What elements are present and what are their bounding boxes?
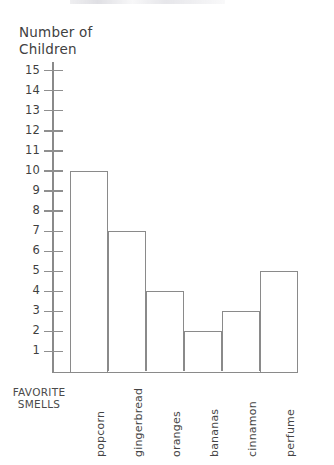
- y-tick-9: [44, 190, 63, 191]
- x-label-oranges: oranges: [170, 411, 183, 457]
- y-tick-label-2: 2: [14, 325, 40, 337]
- y-tick-6: [44, 251, 63, 252]
- y-tick-label-1: 1: [14, 345, 40, 357]
- bar-chart: Number of Children FAVORITE SMELLS 15141…: [0, 0, 334, 465]
- y-tick-14: [44, 90, 63, 91]
- x-label-popcorn: popcorn: [94, 411, 107, 457]
- y-tick-label-13: 13: [14, 105, 40, 117]
- x-axis-line: [52, 372, 298, 374]
- y-tick-label-14: 14: [14, 85, 40, 97]
- bar-cinnamon: [222, 311, 260, 371]
- y-tick-11: [44, 150, 63, 151]
- y-tick-12: [44, 130, 63, 131]
- y-tick-label-10: 10: [14, 165, 40, 177]
- y-axis-line: [52, 62, 54, 373]
- y-tick-1: [44, 351, 63, 352]
- y-tick-8: [44, 210, 63, 211]
- y-tick-label-15: 15: [14, 65, 40, 77]
- y-tick-4: [44, 291, 63, 292]
- y-tick-15: [44, 70, 63, 71]
- x-label-cinnamon: cinnamon: [246, 401, 259, 457]
- x-label-gingerbread: gingerbread: [132, 388, 145, 457]
- y-tick-13: [44, 110, 63, 111]
- x-label-bananas: bananas: [208, 409, 221, 457]
- bar-popcorn: [70, 171, 108, 372]
- y-tick-2: [44, 331, 63, 332]
- y-tick-3: [44, 311, 63, 312]
- x-axis-title: FAVORITE SMELLS: [6, 386, 72, 410]
- y-tick-label-7: 7: [14, 225, 40, 237]
- y-tick-5: [44, 271, 63, 272]
- y-tick-label-11: 11: [14, 145, 40, 157]
- y-tick-label-6: 6: [14, 245, 40, 257]
- x-label-perfume: perfume: [284, 409, 297, 457]
- y-tick-label-4: 4: [14, 285, 40, 297]
- y-axis-title: Number of Children: [19, 24, 92, 57]
- y-tick-7: [44, 231, 63, 232]
- scan-artifact: [70, 0, 225, 4]
- y-tick-label-12: 12: [14, 125, 40, 137]
- bar-oranges: [146, 291, 184, 371]
- bar-bananas: [184, 331, 222, 371]
- y-tick-label-8: 8: [14, 205, 40, 217]
- y-tick-label-3: 3: [14, 305, 40, 317]
- bar-gingerbread: [108, 231, 146, 371]
- y-tick-label-5: 5: [14, 265, 40, 277]
- bar-perfume: [260, 271, 298, 371]
- y-tick-label-9: 9: [14, 185, 40, 197]
- y-tick-10: [44, 170, 63, 171]
